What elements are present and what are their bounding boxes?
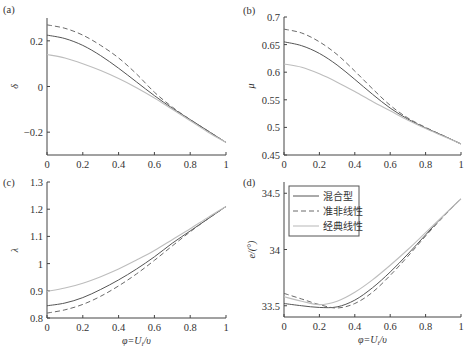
y-tick-label: 1.1 xyxy=(30,231,43,242)
panel-c: 00.20.40.60.811.31.21.110.90.8(c)λφ=Ui/υ xyxy=(3,177,229,348)
legend-label: 准非线性 xyxy=(323,205,363,217)
legend-label: 经典线性 xyxy=(323,220,363,232)
y-tick-label: 1 xyxy=(38,259,43,270)
y-tick-label: 34.5 xyxy=(262,188,280,199)
panel-label: (d) xyxy=(243,177,256,189)
x-tick-label: 0.4 xyxy=(112,322,126,333)
figure: 00.20.40.60.810.20−0.2(a)δ 00.20.40.60.8… xyxy=(0,0,476,358)
y-tick-label: −0.2 xyxy=(24,127,43,138)
x-tick-label: 0.8 xyxy=(184,322,197,333)
y-tick-label: 0.2 xyxy=(30,36,43,47)
x-tick-label: 0.2 xyxy=(76,159,89,170)
x-axis-label-main: φ=U xyxy=(122,335,142,346)
x-tick-label: 0 xyxy=(44,159,49,170)
y-tick-label: 0.8 xyxy=(30,313,43,324)
x-tick-label: 0.8 xyxy=(184,159,197,170)
x-tick-label: 0 xyxy=(281,159,286,170)
x-axis-label: φ=Ui/υ xyxy=(122,335,151,348)
x-tick-label: 0.6 xyxy=(148,159,161,170)
series-line-dashed xyxy=(284,29,461,144)
series-line-dashed xyxy=(47,25,226,143)
series-line-solid xyxy=(284,42,461,144)
x-tick-label: 0.4 xyxy=(348,321,362,332)
y-tick-label: 0.45 xyxy=(262,150,280,161)
y-axis-label: δ xyxy=(9,84,20,89)
x-tick-label: 0 xyxy=(44,322,49,333)
series-line-dotted xyxy=(47,206,226,291)
series-line-solid xyxy=(47,206,226,305)
y-axis-label: μ xyxy=(245,83,256,89)
x-tick-label: 0.8 xyxy=(419,321,432,332)
x-axis-label: φ=Ui/υ xyxy=(358,334,387,347)
y-tick-label: 0.65 xyxy=(262,40,280,51)
x-tick-label: 0.2 xyxy=(76,322,89,333)
y-tick-label: 34 xyxy=(270,245,281,256)
y-tick-label: 0.9 xyxy=(30,286,43,297)
y-tick-label: 0.6 xyxy=(267,67,280,78)
panel-label: (a) xyxy=(3,4,15,16)
panel-label: (b) xyxy=(243,5,256,17)
x-tick-label: 1 xyxy=(223,159,228,170)
y-tick-label: 0.5 xyxy=(267,122,280,133)
panel-d: 00.20.40.60.8134.53433.5(d)e/(°)φ=Ui/υ混合… xyxy=(243,177,464,347)
x-tick-label: 0 xyxy=(281,321,286,332)
y-axis-label: λ xyxy=(9,247,20,253)
x-tick-label: 0.4 xyxy=(348,159,362,170)
x-tick-label: 0.2 xyxy=(313,159,326,170)
panel-label: (c) xyxy=(3,177,15,189)
panel-a: 00.20.40.60.810.20−0.2(a)δ xyxy=(3,4,229,170)
series-line-dotted xyxy=(284,64,461,144)
y-axis-label: e/(°) xyxy=(246,240,258,259)
panel-b: 00.20.40.60.810.70.650.60.550.50.45(b)μ xyxy=(243,5,464,170)
x-tick-label: 1 xyxy=(223,322,228,333)
y-tick-label: 0.55 xyxy=(262,95,280,106)
x-axis-label-main: φ=U xyxy=(358,334,378,345)
legend-label: 混合型 xyxy=(323,190,353,202)
y-tick-label: 1.2 xyxy=(30,204,43,215)
x-tick-label: 0.8 xyxy=(419,159,432,170)
y-tick-label: 33.5 xyxy=(262,301,280,312)
series-line-dotted xyxy=(47,55,226,143)
x-tick-label: 0.6 xyxy=(384,159,397,170)
x-tick-label: 0.6 xyxy=(148,322,161,333)
y-tick-label: 0 xyxy=(38,82,43,93)
y-tick-label: 0.7 xyxy=(267,12,280,23)
x-axis-label-rest: /υ xyxy=(143,335,152,346)
x-tick-label: 0.6 xyxy=(384,321,397,332)
x-tick-label: 1 xyxy=(458,159,463,170)
x-tick-label: 1 xyxy=(458,321,463,332)
y-tick-label: 1.3 xyxy=(30,177,43,188)
x-tick-label: 0.2 xyxy=(313,321,326,332)
x-axis-label-rest: /υ xyxy=(379,334,388,345)
x-tick-label: 0.4 xyxy=(112,159,126,170)
